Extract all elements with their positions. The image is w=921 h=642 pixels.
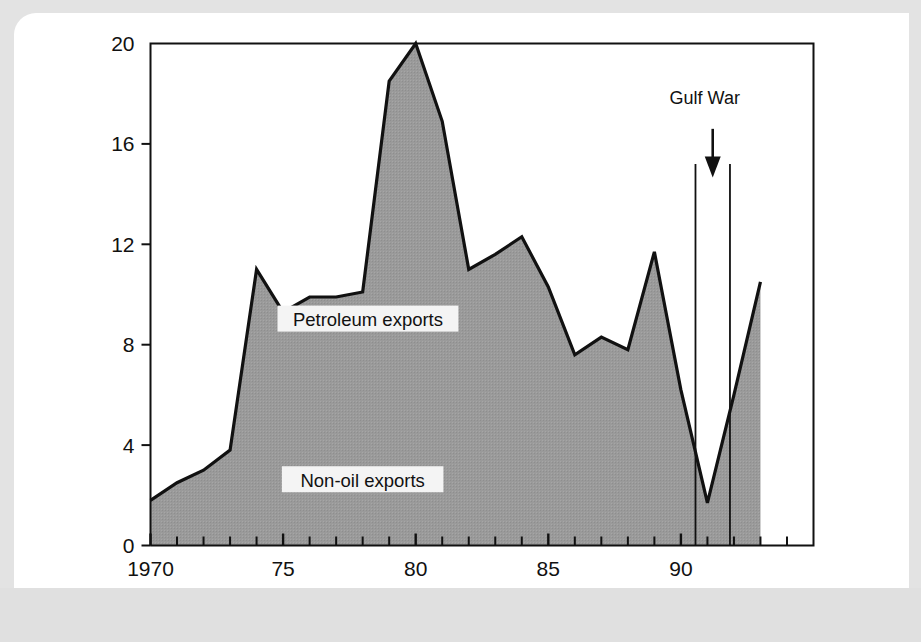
chart-area-plot: 048121620 197075808590 Gulf War Petroleu… <box>0 0 921 642</box>
gulf-war-label: Gulf War <box>670 88 740 108</box>
series-label: Non-oil exports <box>300 470 424 491</box>
x-tick-label: 1970 <box>127 557 174 580</box>
y-tick-label: 16 <box>111 132 134 155</box>
gulf-war-arrow-head <box>705 156 721 177</box>
figure-page: 048121620 197075808590 Gulf War Petroleu… <box>0 0 921 642</box>
area-series-fill <box>151 44 761 546</box>
series-label: Petroleum exports <box>293 309 443 330</box>
x-axis-tick-labels: 197075808590 <box>127 557 692 580</box>
x-tick-label: 90 <box>669 557 692 580</box>
y-axis-ticks <box>142 144 151 546</box>
y-tick-label: 0 <box>123 534 135 557</box>
y-tick-label: 12 <box>111 233 134 256</box>
x-tick-label: 75 <box>271 557 294 580</box>
y-axis-tick-labels: 048121620 <box>111 32 135 557</box>
y-tick-label: 20 <box>111 32 134 55</box>
x-tick-label: 85 <box>537 557 560 580</box>
caption-band: Figure 6.1Kuwaiti export earnings, 1970–… <box>0 588 921 642</box>
y-tick-label: 8 <box>123 333 135 356</box>
x-tick-label: 80 <box>404 557 427 580</box>
y-tick-label: 4 <box>123 434 135 457</box>
